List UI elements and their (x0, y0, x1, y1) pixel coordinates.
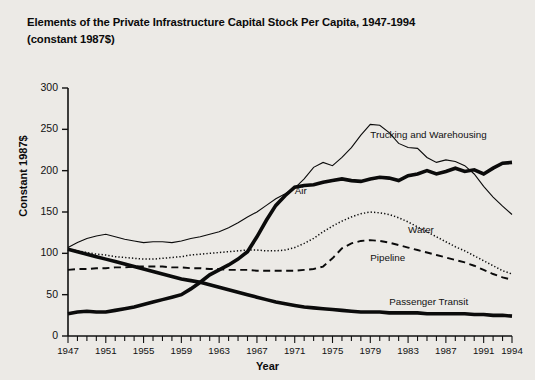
series-line (68, 124, 512, 247)
x-tick-label: 1955 (127, 345, 161, 356)
y-tick-label: 50 (24, 288, 58, 300)
series-label: Pipeline (370, 252, 405, 263)
x-tick-label: 1994 (495, 345, 529, 356)
series-label: Water (408, 224, 434, 235)
x-axis-label: Year (0, 360, 535, 372)
x-tick-label: 1983 (391, 345, 425, 356)
x-tick-label: 1975 (316, 345, 350, 356)
y-tick-label: 150 (24, 205, 58, 217)
x-tick-label: 1959 (164, 345, 198, 356)
series-label: Trucking and Warehousing (370, 129, 486, 140)
x-tick-label: 1967 (240, 345, 274, 356)
y-tick-label: 0 (24, 329, 58, 341)
x-tick-label: 1971 (278, 345, 312, 356)
y-tick-label: 200 (24, 164, 58, 176)
x-tick-label: 1947 (51, 345, 85, 356)
x-tick-label: 1963 (202, 345, 236, 356)
chart-canvas (0, 0, 535, 380)
series-label: Air (295, 185, 307, 196)
x-tick-label: 1979 (353, 345, 387, 356)
plot-area: Constant 1987$ Year 050100150200250300 1… (0, 0, 535, 380)
series-line (68, 162, 512, 313)
y-tick-label: 300 (24, 81, 58, 93)
chart-figure: Elements of the Private Infrastructure C… (0, 0, 535, 380)
y-tick-label: 100 (24, 246, 58, 258)
x-tick-label: 1951 (89, 345, 123, 356)
series-line (68, 240, 512, 280)
series-label: Passenger Transit (389, 296, 468, 307)
x-tick-label: 1987 (429, 345, 463, 356)
series-line (68, 212, 512, 274)
y-tick-label: 250 (24, 122, 58, 134)
